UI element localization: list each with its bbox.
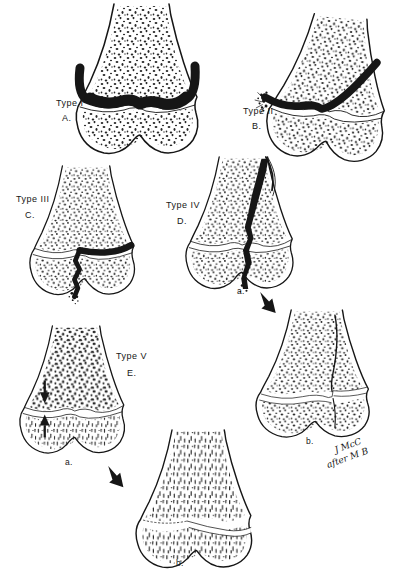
type-2-letter: B. (252, 121, 262, 131)
artist-signature: J McC after M B (325, 436, 370, 470)
type-4-label: Type IV (166, 200, 200, 210)
type-4-bone-illustration (186, 157, 293, 292)
type-2-bone-illustration (250, 8, 395, 164)
type-2-label: Type II (243, 106, 274, 116)
type-3-bone-illustration (30, 166, 134, 304)
type-3-letter: C. (25, 210, 35, 220)
type-5-letter: E. (127, 368, 137, 378)
type-4-sub-b-label: b. (306, 436, 314, 446)
type-4b-bone-illustration (256, 310, 369, 437)
progression-arrow-icon (101, 463, 129, 492)
figure-page: Type I A. Type II B. Type III C. (0, 0, 395, 576)
type-1-letter: A. (62, 113, 72, 123)
type-5-bone-illustration (20, 326, 124, 453)
type-5-sub-b-label: b. (176, 558, 184, 568)
type-5-label: Type V (116, 351, 147, 361)
type-1-label: Type I (56, 98, 84, 108)
type-3-label: Type III (16, 194, 50, 204)
fracture-line-through-epiphysis (74, 250, 79, 296)
progression-arrow-icon (253, 289, 282, 318)
type-5b-bone-illustration (136, 430, 251, 567)
type-4-letter: D. (177, 216, 187, 226)
type-1-bone-illustration (76, 4, 197, 153)
type-5-sub-a-label: a. (65, 457, 73, 467)
type-4-sub-a-label: a. (237, 286, 245, 296)
figure-canvas: Type I A. Type II B. Type III C. (0, 0, 395, 576)
